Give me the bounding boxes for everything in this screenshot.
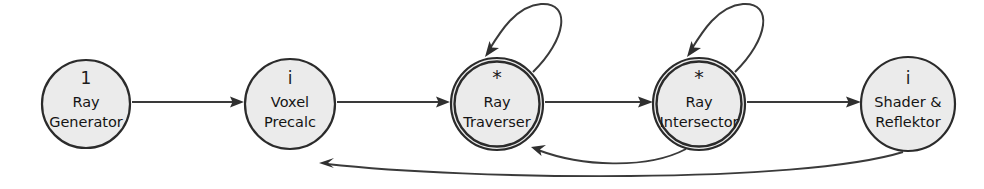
arrowhead-icon [319,158,334,168]
edge-ray-generator-to-voxel-precalc [132,97,244,108]
node-ray-generator[interactable]: 1 Ray Generator [42,60,130,148]
node-shader-reflektor-label-line1: Shader & [874,94,941,110]
node-ray-traverser-label-line1: Ray [483,94,511,110]
edge-ray-intersector-to-shader-reflektor [747,97,861,108]
node-shader-reflektor-label-line2: Reflektor [875,114,940,130]
edge-voxel-precalc-to-ray-traverser [337,97,450,108]
node-ray-intersector[interactable]: * Ray Intersector [653,58,745,150]
node-ray-generator-marker: 1 [81,68,92,88]
node-ray-traverser[interactable]: * Ray Traverser [451,58,543,150]
node-voxel-precalc[interactable]: i Voxel Precalc [245,59,335,149]
node-ray-generator-label-line2: Generator [49,114,123,130]
node-shader-reflektor-marker: i [906,68,911,88]
node-ray-traverser-marker: * [492,66,502,88]
diagram-canvas: 1 Ray Generator i Voxel Precalc * Ray Tr… [0,0,984,189]
node-shader-reflektor[interactable]: i Shader & Reflektor [861,57,955,151]
node-ray-intersector-label-line1: Ray [685,94,713,110]
node-ray-generator-label-line1: Ray [72,94,100,110]
node-ray-intersector-label-line2: Intersector [660,114,739,130]
pipeline-diagram: 1 Ray Generator i Voxel Precalc * Ray Tr… [0,0,984,189]
edge-ray-traverser-to-ray-intersector [545,97,653,108]
node-ray-traverser-label-line2: Traverser [462,114,531,130]
arrowhead-icon [531,145,546,156]
node-voxel-precalc-label-line2: Precalc [264,114,316,130]
edge-ray-intersector-to-ray-traverser-feedback [531,145,686,163]
node-voxel-precalc-label-line1: Voxel [271,94,309,110]
node-ray-intersector-marker: * [694,66,704,88]
node-voxel-precalc-marker: i [288,68,293,88]
